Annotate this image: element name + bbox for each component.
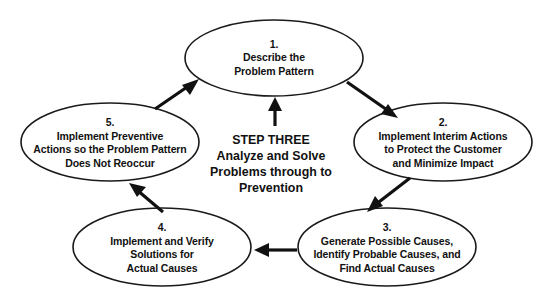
connector-2-to-3-arrow (367, 178, 410, 212)
node-ellipse-5[interactable] (21, 103, 199, 181)
center-caption-line-4: Prevention (186, 180, 356, 196)
center-caption-line-1: STEP THREE (186, 132, 356, 148)
center-caption: STEP THREE Analyze and Solve Problems th… (186, 132, 356, 197)
node-ellipse-1[interactable] (185, 20, 363, 96)
connector-1-to-2-arrow (347, 82, 398, 118)
connector-5-to-1-arrow (155, 79, 199, 109)
node-ellipse-2[interactable] (354, 103, 532, 181)
center-caption-line-2: Analyze and Solve (186, 148, 356, 164)
node-ellipse-3[interactable] (298, 208, 476, 286)
connector-4-to-5-arrow (129, 183, 163, 212)
connector-3-to-4-arrow (254, 243, 297, 257)
center-caption-line-3: Problems through to (186, 164, 356, 180)
node-ellipse-4[interactable] (73, 208, 251, 286)
connector-center-to-1-arrow (268, 97, 282, 126)
cycle-diagram: 1. Describe the Problem Pattern 2. Imple… (0, 0, 551, 299)
